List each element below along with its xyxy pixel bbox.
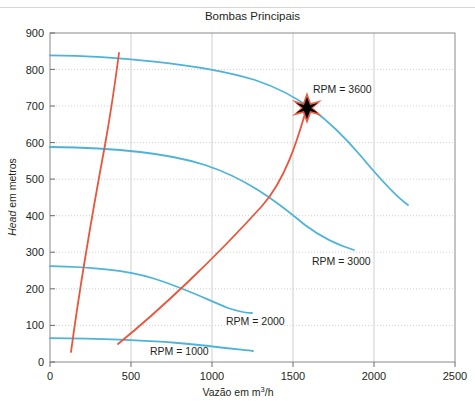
annotation-rpm-2000: RPM = 2000 <box>226 315 285 327</box>
x-axis-label-pre: Vazão em m <box>202 386 260 398</box>
chart-page: Bombas Principais <box>0 0 475 401</box>
x-tick-1000: 1000 <box>200 370 224 382</box>
y-tick-700: 700 <box>26 100 44 112</box>
annotation-rpm-3000: RPM = 3000 <box>312 255 371 267</box>
y-axis-label-italic: Head <box>6 210 18 236</box>
y-axis-label: Head em metros <box>6 158 18 236</box>
x-tick-2500: 2500 <box>443 370 467 382</box>
annotation-rpm-3600: RPM = 3600 <box>313 83 372 95</box>
x-tick-marks <box>50 362 455 367</box>
y-tick-400: 400 <box>26 210 44 222</box>
y-tick-500: 500 <box>26 173 44 185</box>
x-tick-0: 0 <box>47 370 53 382</box>
y-tick-900: 900 <box>26 27 44 39</box>
x-tick-500: 500 <box>122 370 140 382</box>
y-tick-200: 200 <box>26 283 44 295</box>
y-tick-300: 300 <box>26 246 44 258</box>
y-tick-labels: 0 100 200 300 400 500 600 700 800 900 <box>26 27 44 368</box>
x-axis-label-post: /h <box>265 386 274 398</box>
y-tick-0: 0 <box>38 356 44 368</box>
x-axis-label: Vazão em m3/h <box>202 385 273 398</box>
pump-curve-chart: 0 100 200 300 400 500 600 700 800 900 0 … <box>0 0 475 401</box>
y-tick-600: 600 <box>26 137 44 149</box>
y-axis-label-rest: em metros <box>6 158 18 211</box>
x-tick-2000: 2000 <box>362 370 386 382</box>
annotation-rpm-1000: RPM = 1000 <box>150 345 209 357</box>
y-tick-800: 800 <box>26 64 44 76</box>
x-tick-labels: 0 500 1000 1500 2000 2500 <box>47 370 467 382</box>
y-tick-100: 100 <box>26 319 44 331</box>
x-tick-1500: 1500 <box>281 370 305 382</box>
